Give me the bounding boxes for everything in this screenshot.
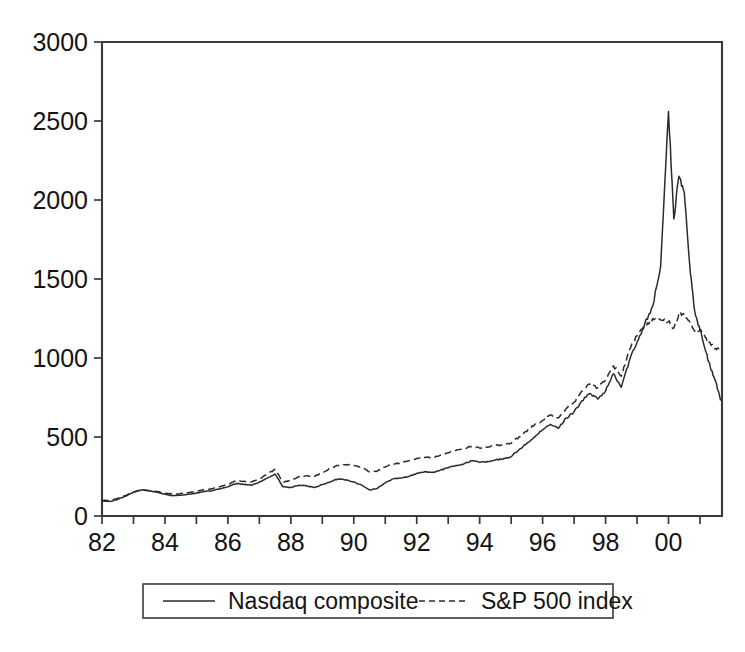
x-axis-tick-labels: 82848688909294969800 <box>88 528 682 556</box>
y-axis-tick-labels: 050010001500200025003000 <box>32 28 88 530</box>
y-tick-label: 1000 <box>32 344 88 372</box>
chart-figure: 050010001500200025003000 828486889092949… <box>0 0 745 652</box>
x-tick-label: 00 <box>655 528 683 556</box>
x-axis-ticks <box>102 516 700 524</box>
legend-label-nasdaq-composite: Nasdaq composite <box>228 588 419 614</box>
legend-label-sp-500-index: S&P 500 index <box>481 588 633 614</box>
x-tick-label: 94 <box>466 528 494 556</box>
y-tick-label: 3000 <box>32 28 88 56</box>
x-tick-label: 92 <box>403 528 431 556</box>
x-tick-label: 98 <box>592 528 620 556</box>
plot-area: 050010001500200025003000 828486889092949… <box>32 28 722 556</box>
y-tick-label: 2000 <box>32 186 88 214</box>
x-tick-label: 90 <box>340 528 368 556</box>
x-tick-label: 82 <box>88 528 116 556</box>
chart-svg: 050010001500200025003000 828486889092949… <box>0 0 745 652</box>
x-tick-label: 96 <box>529 528 557 556</box>
x-tick-label: 86 <box>214 528 242 556</box>
plot-background <box>102 42 722 516</box>
y-tick-label: 2500 <box>32 107 88 135</box>
y-tick-label: 1500 <box>32 265 88 293</box>
y-tick-label: 500 <box>46 423 88 451</box>
chart-legend: Nasdaq composite S&P 500 index <box>143 584 633 618</box>
x-tick-label: 84 <box>151 528 179 556</box>
y-axis-ticks <box>94 42 102 516</box>
x-tick-label: 88 <box>277 528 305 556</box>
y-tick-label: 0 <box>74 502 88 530</box>
